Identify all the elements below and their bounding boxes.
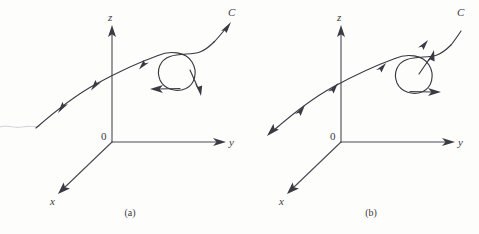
panel-b-x-label: x: [278, 195, 284, 207]
panel-b-x-axis: [287, 142, 341, 194]
panel-a-z-axis: [108, 25, 116, 142]
panel-a-y-label: y: [228, 136, 234, 148]
panel-a-caption: (a): [110, 207, 150, 218]
panel-b-loop-arrow-up: [419, 50, 435, 74]
panel-a-x-axis: [58, 142, 112, 194]
panel-a-curve-lower: [36, 56, 158, 129]
panel-b-loop-arrow-right: [410, 88, 441, 96]
panel-b-z-label: z: [336, 11, 342, 23]
panel-b-arrow-1: [295, 105, 305, 116]
scan-artifact: [0, 126, 40, 127]
panel-b-curve-lower: [273, 59, 395, 132]
panel-b-y-label: y: [457, 136, 463, 148]
panel-b: z y x 0: [267, 6, 465, 207]
panel-a-curve-head: [221, 22, 231, 33]
panel-a: z y x 0: [0, 6, 236, 207]
panel-b-curve-head: [267, 124, 279, 136]
panel-a-origin-label: 0: [101, 130, 107, 142]
panel-a-z-label: z: [107, 11, 113, 23]
panel-b-y-axis: [341, 138, 455, 146]
panel-a-x-label: x: [49, 195, 55, 207]
panel-a-loop: [158, 42, 214, 90]
panel-a-arrow-3: [139, 60, 149, 70]
panel-b-curve-upper: [451, 31, 461, 45]
figure-canvas: z y x 0: [0, 0, 479, 234]
panel-a-curve-label: C: [228, 6, 236, 18]
panel-b-caption: (b): [351, 207, 391, 218]
panel-b-arrow-4: [418, 40, 428, 50]
panel-b-z-axis: [337, 25, 345, 142]
panel-b-origin-label: 0: [330, 130, 336, 142]
figure-container: z y x 0: [0, 0, 479, 234]
panel-a-y-axis: [112, 138, 226, 146]
panel-b-curve-label: C: [457, 6, 465, 18]
